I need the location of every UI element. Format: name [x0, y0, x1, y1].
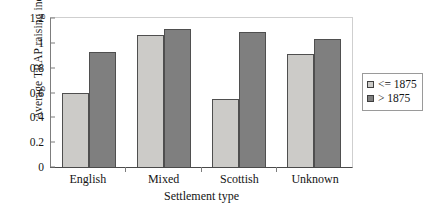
- y-axis-tick-label: 0.4: [30, 111, 51, 123]
- bar-group: [51, 18, 126, 167]
- bar-group: [277, 18, 352, 167]
- legend-swatch-icon: [367, 81, 374, 88]
- x-axis-tick-label: Unknown: [277, 172, 353, 187]
- legend: <= 1875> 1875: [362, 73, 423, 111]
- y-axis-tick-label: 0.8: [30, 62, 51, 74]
- bar: [314, 39, 341, 167]
- legend-swatch-icon: [367, 95, 374, 102]
- bar: [212, 99, 239, 167]
- legend-label: > 1875: [378, 91, 410, 105]
- legend-item: > 1875: [367, 91, 417, 105]
- bar-group: [202, 18, 277, 167]
- bar-group: [126, 18, 201, 167]
- chart-figure: Average TRAP raising index 00.20.40.60.8…: [0, 0, 438, 216]
- bar: [287, 54, 314, 167]
- y-axis-tick-label: 1: [38, 37, 51, 49]
- legend-item: <= 1875: [367, 77, 417, 91]
- bar: [89, 52, 116, 167]
- x-axis-title: Settlement type: [50, 189, 353, 204]
- y-axis-tick-label: 0.2: [30, 136, 51, 148]
- legend-label: <= 1875: [378, 77, 417, 91]
- bar: [239, 32, 266, 167]
- bar-groups: [51, 18, 352, 167]
- x-axis-tick-label: English: [50, 172, 126, 187]
- x-axis-tick-labels: EnglishMixedScottishUnknown: [50, 172, 353, 187]
- bar: [137, 35, 164, 167]
- x-axis-tick-label: Mixed: [126, 172, 202, 187]
- plot-area: 00.20.40.60.811.2: [50, 17, 353, 168]
- y-axis-tick-label: 1.2: [30, 12, 51, 24]
- bar: [62, 93, 89, 168]
- bar: [164, 29, 191, 167]
- x-axis-tick-label: Scottish: [202, 172, 278, 187]
- y-axis-tick-label: 0.6: [30, 87, 51, 99]
